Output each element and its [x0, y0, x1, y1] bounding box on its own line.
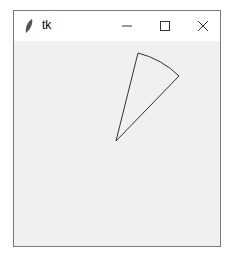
tk-window: tk: [13, 10, 221, 247]
minimize-icon: [121, 20, 133, 32]
maximize-icon: [159, 20, 171, 32]
feather-icon: [24, 18, 34, 34]
close-button[interactable]: [186, 11, 220, 41]
window-title: tk: [42, 18, 51, 32]
minimize-button[interactable]: [110, 11, 144, 41]
canvas[interactable]: [14, 41, 220, 246]
close-icon: [197, 20, 209, 32]
maximize-button[interactable]: [148, 11, 182, 41]
title-bar[interactable]: tk: [14, 11, 220, 41]
pieslice-arc: [14, 41, 220, 246]
